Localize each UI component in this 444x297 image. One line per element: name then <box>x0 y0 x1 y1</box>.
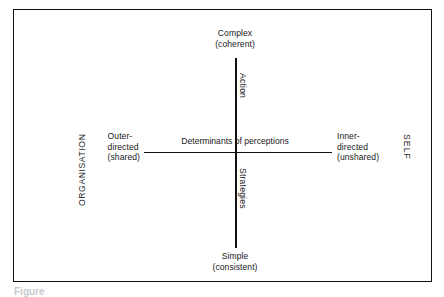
right-pole-label: Inner- directed (unshared) <box>337 131 379 163</box>
left-pole-label: Outer- directed (shared) <box>108 131 140 163</box>
right-pole-line3: (unshared) <box>337 152 379 163</box>
left-pole-line3: (shared) <box>108 152 140 163</box>
side-label-self: SELF <box>402 134 411 160</box>
bottom-pole-line1: Simple <box>212 251 257 262</box>
bottom-pole-line2: (consistent) <box>212 262 257 273</box>
bottom-pole-label: Simple (consistent) <box>212 251 257 272</box>
vertical-axis-lower-name: Strategies <box>238 168 247 209</box>
top-pole-line2: (coherent) <box>215 39 255 50</box>
horizontal-axis-line <box>144 152 332 154</box>
right-pole-line2: directed <box>337 142 379 153</box>
left-pole-line1: Outer- <box>108 131 140 142</box>
centre-label: Determinants of perceptions <box>181 136 288 146</box>
left-pole-line2: directed <box>108 142 140 153</box>
top-pole-label: Complex (coherent) <box>215 28 255 49</box>
figure-caption: Figure <box>14 286 45 297</box>
figure-root: Complex (coherent) Simple (consistent) O… <box>0 0 444 297</box>
right-pole-line1: Inner- <box>337 131 379 142</box>
top-pole-line1: Complex <box>215 28 255 39</box>
figure-frame: Complex (coherent) Simple (consistent) O… <box>13 9 432 282</box>
side-label-organisation: ORGANISATION <box>78 134 87 206</box>
vertical-axis-upper-name: Action <box>238 73 247 98</box>
